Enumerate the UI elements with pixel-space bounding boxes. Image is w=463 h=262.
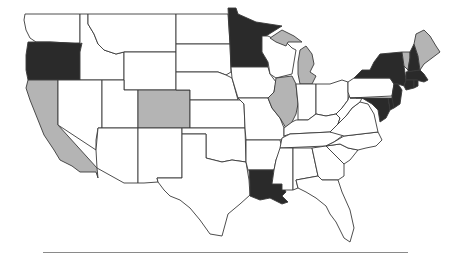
state-oregon: Oregon — [26, 42, 82, 80]
state-kansas: Kansas — [190, 100, 245, 128]
us-choropleth-map: WashingtonOregonCaliforniaIdahoNevadaMon… — [0, 0, 463, 262]
state-colorado: Colorado — [138, 90, 190, 128]
state-south-dakota: South Dakota — [176, 44, 231, 75]
state-north-dakota: North Dakota — [176, 14, 230, 44]
state-florida: Florida — [296, 176, 354, 242]
state-new-mexico: New Mexico — [138, 128, 182, 183]
map-baseline-rule — [43, 252, 408, 253]
state-wyoming: Wyoming — [124, 52, 176, 90]
state-arizona: Arizona — [96, 128, 138, 183]
state-pennsylvania: Pennsylvania — [348, 78, 394, 98]
state-rhode-island: Rhode Island — [414, 80, 418, 88]
state-washington: Washington — [24, 14, 80, 44]
state-michigan: Michigan — [298, 46, 316, 84]
state-indiana: Indiana — [296, 84, 316, 120]
state-connecticut: Connecticut — [404, 80, 414, 90]
